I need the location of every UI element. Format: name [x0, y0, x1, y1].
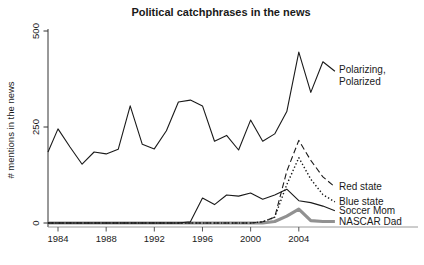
x-tick-label-1988: 1988: [96, 233, 117, 244]
x-tick-label-1996: 1996: [192, 233, 213, 244]
y-tick-label-500: 500: [30, 23, 41, 39]
x-tick-label-1984: 1984: [47, 233, 68, 244]
chart-title: Political catchphrases in the news: [131, 6, 310, 18]
chart-container: Political catchphrases in the news # men…: [0, 0, 424, 265]
y-tick-label-0: 0: [30, 220, 41, 225]
series-lines: [48, 52, 335, 223]
chart: Political catchphrases in the news # men…: [0, 0, 424, 265]
x-tick-label-2000: 2000: [240, 233, 261, 244]
series-labels: Polarizing,PolarizedRed stateBlue stateS…: [339, 64, 402, 227]
x-tick-label-2004: 2004: [288, 233, 309, 244]
series-label-polarizing-polarized: Polarizing,Polarized: [339, 64, 386, 88]
y-axis-label: # mentions in the news: [5, 81, 16, 178]
x-tick-label-1992: 1992: [144, 233, 165, 244]
series-line-red-state: [48, 140, 335, 223]
series-label-red-state: Red state: [339, 181, 382, 192]
series-line-soccer-mom: [48, 189, 335, 223]
series-label-soccer-mom: Soccer Mom: [339, 205, 395, 216]
series-line-polarizing-polarized: [48, 52, 335, 164]
y-tick-label-250: 250: [30, 119, 41, 135]
series-label-nascar-dad: NASCAR Dad: [339, 216, 402, 227]
